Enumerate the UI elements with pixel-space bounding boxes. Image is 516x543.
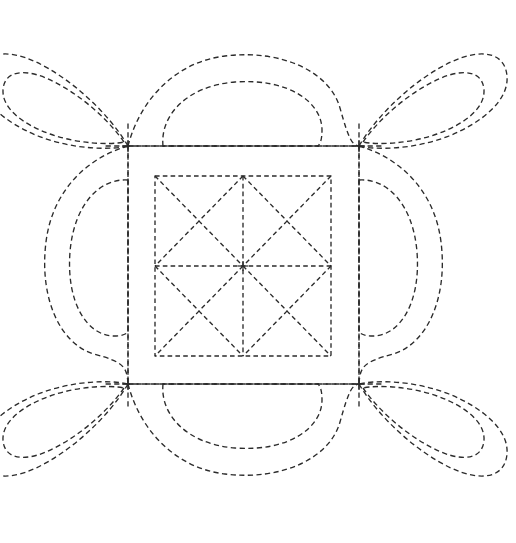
corner-petal-inner-outline bbox=[3, 73, 124, 144]
corner-petal-outer-outline bbox=[359, 54, 507, 148]
corner-petal-inner-outline bbox=[363, 387, 484, 458]
corner-teardrop-petal-bottom-left bbox=[0, 382, 128, 476]
corner-teardrop-petal-bottom-right bbox=[359, 382, 507, 476]
corner-petal-group bbox=[0, 54, 507, 476]
corner-teardrop-petal-top-left bbox=[0, 54, 128, 148]
edge-petal-inner-outline bbox=[163, 82, 322, 146]
corner-petal-outer-outline bbox=[359, 382, 507, 476]
corner-petal-outer-outline bbox=[0, 54, 128, 148]
corner-petal-outer-outline bbox=[0, 382, 128, 476]
corner-petal-inner-outline bbox=[3, 387, 124, 458]
edge-oval-petal-top bbox=[128, 55, 359, 146]
edge-petal-inner-outline bbox=[359, 180, 417, 336]
edge-oval-petal-bottom bbox=[128, 384, 359, 475]
stencil-drawing bbox=[0, 0, 516, 543]
edge-petal-outer-outline bbox=[128, 384, 359, 475]
edge-oval-petal-right bbox=[359, 146, 442, 384]
corner-teardrop-petal-top-right bbox=[359, 54, 507, 148]
edge-petal-outer-outline bbox=[45, 146, 128, 384]
corner-petal-inner-outline bbox=[363, 73, 484, 144]
stencil-canvas: Quilting Stencil Pattern bbox=[0, 0, 516, 543]
edge-oval-petal-left bbox=[45, 146, 128, 384]
edge-petal-inner-outline bbox=[163, 384, 322, 448]
edge-petal-outer-outline bbox=[359, 146, 442, 384]
edge-petal-outer-outline bbox=[128, 55, 359, 146]
edge-petal-inner-outline bbox=[70, 180, 128, 336]
